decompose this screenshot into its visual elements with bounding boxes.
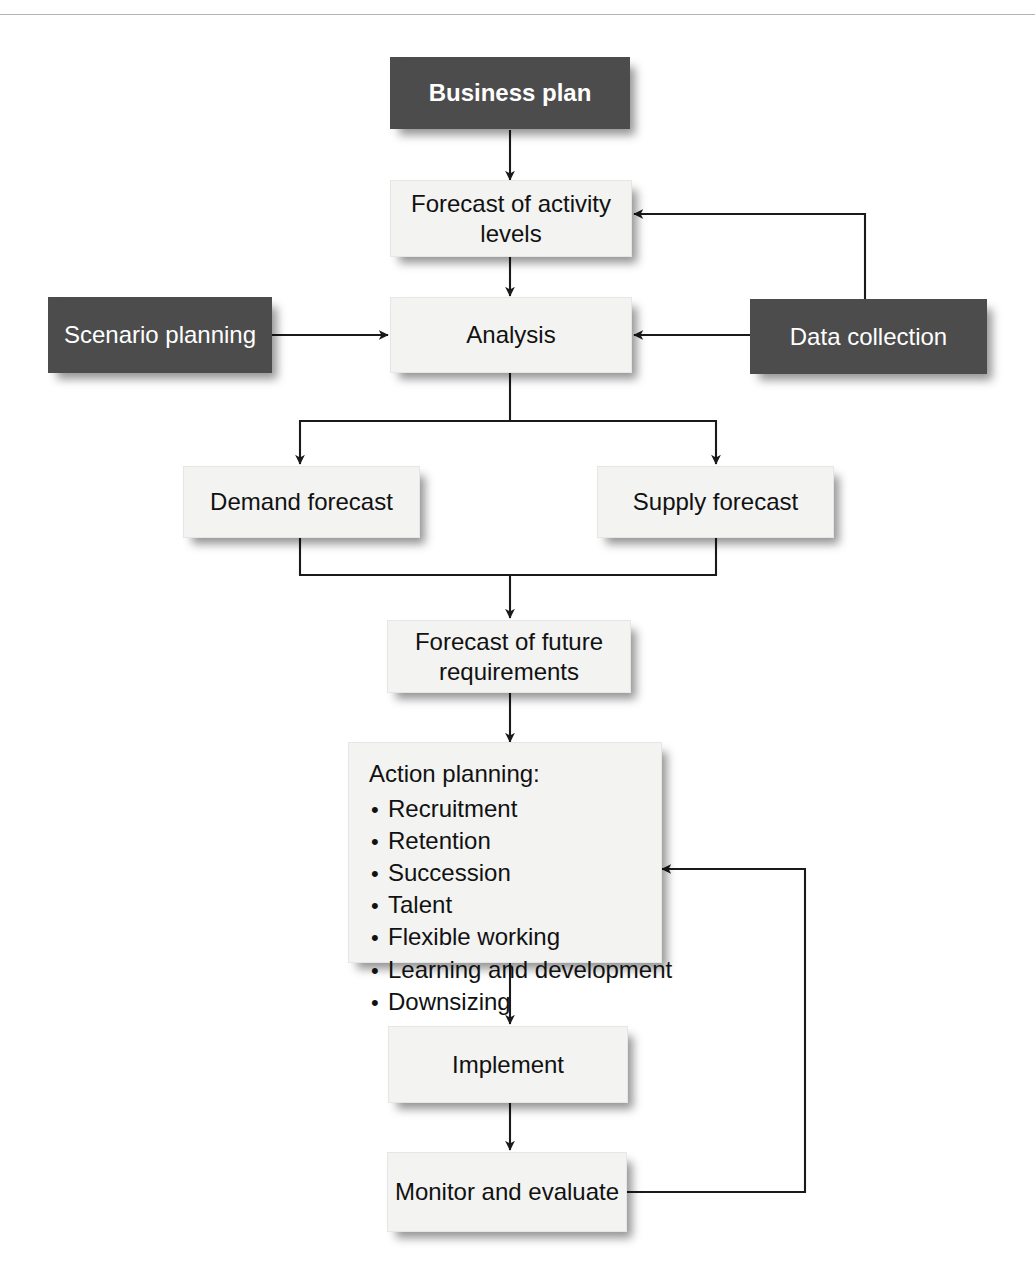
action-planning-title: Action planning: [369,759,643,789]
node-forecast-activity-levels-line1: Forecast of activity [411,190,611,217]
node-supply-forecast-label: Supply forecast [633,487,798,517]
node-supply-forecast[interactable]: Supply forecast [597,466,834,538]
node-forecast-future-requirements[interactable]: Forecast of future requirements [387,620,631,693]
edge-analysis-to-demand-forecast [300,421,510,464]
list-item: Recruitment [369,793,643,825]
list-item: Retention [369,825,643,857]
node-forecast-future-requirements-label: Forecast of future requirements [415,627,603,687]
node-demand-forecast-label: Demand forecast [210,487,393,517]
node-analysis-label: Analysis [466,320,555,350]
node-scenario-planning[interactable]: Scenario planning [48,297,272,373]
list-item: Talent [369,889,643,921]
edge-demand-forecast-merge [300,538,510,575]
node-implement-label: Implement [452,1050,564,1080]
node-data-collection[interactable]: Data collection [750,299,987,374]
list-item: Learning and development [369,954,643,986]
edge-analysis-to-supply-forecast [510,421,716,464]
node-forecast-activity-levels-label: Forecast of activity levels [411,189,611,249]
node-forecast-future-requirements-line2: requirements [439,658,579,685]
flowchart-canvas: Business plan Forecast of activity level… [0,0,1035,1282]
edge-supply-forecast-merge [510,538,716,575]
node-analysis[interactable]: Analysis [390,297,632,373]
node-monitor-and-evaluate-label: Monitor and evaluate [395,1177,619,1207]
node-forecast-activity-levels-line2: levels [480,220,541,247]
list-item: Downsizing [369,986,643,1018]
list-item: Succession [369,857,643,889]
node-implement[interactable]: Implement [388,1026,628,1103]
node-business-plan-label: Business plan [429,78,592,108]
edge-data-collection-to-forecast-activity [634,214,865,300]
node-action-planning[interactable]: Action planning: Recruitment Retention S… [348,742,662,963]
action-planning-list: Recruitment Retention Succession Talent … [369,793,643,1018]
node-demand-forecast[interactable]: Demand forecast [183,466,420,538]
node-scenario-planning-label: Scenario planning [64,320,256,350]
node-data-collection-label: Data collection [790,322,947,352]
node-forecast-future-requirements-line1: Forecast of future [415,628,603,655]
page-top-rule [0,14,1035,15]
node-monitor-and-evaluate[interactable]: Monitor and evaluate [387,1152,627,1232]
list-item: Flexible working [369,921,643,953]
node-business-plan[interactable]: Business plan [390,57,630,129]
node-forecast-activity-levels[interactable]: Forecast of activity levels [390,180,632,257]
